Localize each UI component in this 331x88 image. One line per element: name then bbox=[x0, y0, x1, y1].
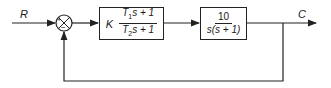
plant-block: 10 s(s + 1) bbox=[200, 7, 247, 40]
plant-transfer-function: 10 s(s + 1) bbox=[204, 11, 244, 36]
minus-sign: − bbox=[61, 23, 66, 32]
gain-k: K bbox=[106, 18, 113, 30]
controller-numerator: T1s + 1 bbox=[119, 7, 157, 24]
controller-transfer-function: T1s + 1 T2s + 1 bbox=[119, 7, 157, 40]
feedback-path bbox=[64, 23, 283, 81]
input-label-r: R bbox=[20, 8, 28, 20]
controller-block: K T1s + 1 T2s + 1 bbox=[99, 7, 164, 40]
diagram-lines bbox=[0, 0, 331, 88]
plus-sign: + bbox=[57, 16, 61, 23]
plant-numerator: 10 bbox=[215, 11, 232, 24]
plant-denominator: s(s + 1) bbox=[204, 24, 244, 36]
controller-denominator: T2s + 1 bbox=[119, 24, 157, 40]
output-label-c: C bbox=[298, 8, 306, 20]
